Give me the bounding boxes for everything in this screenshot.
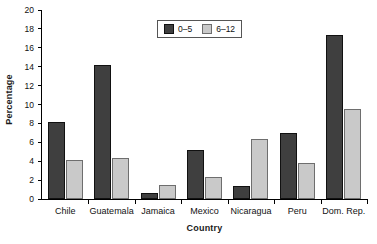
bar-chart: Percentage 02468101214161820 ChileGuatem… <box>0 0 377 244</box>
y-axis-tick: 16 <box>0 42 42 54</box>
bar <box>141 193 158 199</box>
y-axis-tick-label: 10 <box>25 99 34 111</box>
x-axis-category-label: Peru <box>274 206 320 216</box>
y-axis-tick: 4 <box>0 155 42 167</box>
x-axis-tick-mark <box>135 200 136 204</box>
x-axis-tick-mark <box>88 200 89 204</box>
bar <box>280 133 297 199</box>
plot-area <box>42 10 367 199</box>
bar <box>251 139 268 199</box>
legend-swatch-icon <box>202 24 212 34</box>
y-axis-tick-label: 4 <box>29 155 34 167</box>
y-axis-tick-label: 16 <box>25 42 34 54</box>
x-axis-tick-mark <box>274 200 275 204</box>
bar <box>66 160 83 199</box>
x-axis-category-label: Chile <box>42 206 88 216</box>
y-axis-tick-label: 2 <box>29 174 34 186</box>
bar <box>159 185 176 199</box>
y-axis-tick: 6 <box>0 136 42 148</box>
x-axis-line <box>41 199 368 200</box>
legend-entry: 6–12 <box>202 24 235 34</box>
x-axis-category-label: Nicaragua <box>228 206 274 216</box>
bar <box>233 186 250 199</box>
bar <box>326 35 343 199</box>
y-axis-tick: 12 <box>0 80 42 92</box>
legend-label: 6–12 <box>216 24 235 34</box>
x-axis-category-label: Dom. Rep. <box>321 206 367 216</box>
y-axis-tick: 0 <box>0 193 42 205</box>
legend-swatch-icon <box>164 24 174 34</box>
legend-label: 0–5 <box>178 24 192 34</box>
x-axis-tick-mark <box>321 200 322 204</box>
bar <box>94 65 111 199</box>
y-axis-tick: 18 <box>0 23 42 35</box>
bar <box>187 150 204 199</box>
x-axis-title: Country <box>42 223 367 233</box>
y-axis-tick-label: 14 <box>25 61 34 73</box>
legend: 0–56–12 <box>157 20 242 38</box>
y-axis-tick-label: 0 <box>29 193 34 205</box>
bar <box>344 109 361 199</box>
x-axis-tick-mark <box>181 200 182 204</box>
y-axis-tick: 10 <box>0 99 42 111</box>
y-axis-tick-label: 20 <box>25 4 34 16</box>
x-axis-category-label: Guatemala <box>88 206 134 216</box>
y-axis-tick-label: 6 <box>29 136 34 148</box>
y-axis-tick: 14 <box>0 61 42 73</box>
y-axis-tick-label: 18 <box>25 23 34 35</box>
bar <box>112 158 129 199</box>
bar <box>205 177 222 199</box>
y-axis-tick: 20 <box>0 4 42 16</box>
bar <box>298 163 315 199</box>
y-axis-tick-label: 8 <box>29 117 34 129</box>
legend-entry: 0–5 <box>164 24 192 34</box>
y-axis-tick: 8 <box>0 117 42 129</box>
x-axis-category-label: Mexico <box>181 206 227 216</box>
bar <box>48 122 65 199</box>
y-axis-tick-label: 12 <box>25 80 34 92</box>
x-axis-tick-mark <box>228 200 229 204</box>
x-axis-tick-mark <box>367 200 368 204</box>
x-axis-category-label: Jamaica <box>135 206 181 216</box>
y-axis-tick: 2 <box>0 174 42 186</box>
